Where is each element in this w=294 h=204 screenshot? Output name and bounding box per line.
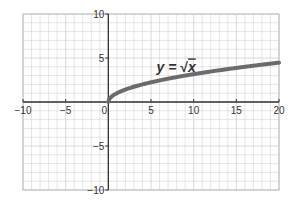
x-tick-label: 15 bbox=[231, 105, 243, 116]
y-tick-label: 5 bbox=[99, 53, 105, 64]
x-tick-label: 0 bbox=[102, 105, 108, 116]
y-tick-label: −10 bbox=[87, 185, 104, 196]
sqrt-function-chart: −10−505101520−10−5510 y = √x bbox=[0, 0, 294, 204]
x-tick-label: 10 bbox=[188, 105, 200, 116]
x-tick-label: 5 bbox=[148, 105, 154, 116]
y-tick-label: 10 bbox=[93, 9, 105, 20]
x-tick-label: −10 bbox=[15, 105, 32, 116]
y-tick-label: −5 bbox=[93, 141, 105, 152]
x-tick-label: 20 bbox=[273, 105, 285, 116]
equation-label: y = √x bbox=[156, 59, 197, 75]
x-tick-label: −5 bbox=[60, 105, 72, 116]
